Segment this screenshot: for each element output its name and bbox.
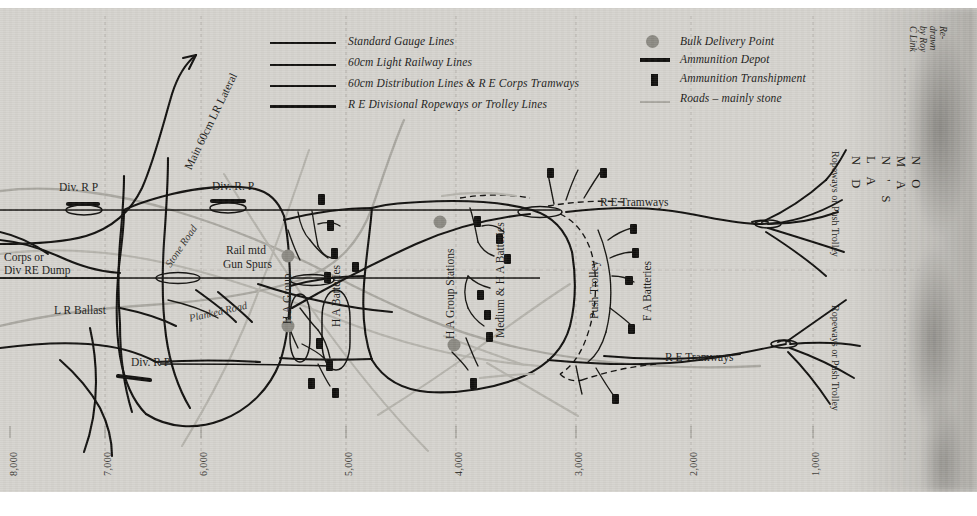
label-rail-mtd: Rail mtd <box>226 244 266 256</box>
label-ropeways-lower: Ropeways or Push Trolley <box>830 305 841 411</box>
label-re-tramways-upper: R E Tramways <box>600 196 668 208</box>
legend-label-light-railway: 60cm Light Railway Lines <box>348 56 472 68</box>
ropeway-fan-lower <box>778 300 860 404</box>
axis-tick-2000: 2,000 <box>688 452 699 477</box>
diagram-page: .sg {fill:none;stroke:#100f0d;stroke-wid… <box>0 0 977 516</box>
label-div-rp-lower-left: Div. R P <box>131 356 170 368</box>
label-push-trolley: Push Trolley <box>588 261 600 319</box>
credit-label: Re-drawn by Roy C Link <box>908 26 948 55</box>
legend-symbol-ammunition-depot <box>640 58 670 62</box>
legend-symbol-road <box>640 101 670 103</box>
legend-label-bulk-delivery-point: Bulk Delivery Point <box>680 35 774 47</box>
axis-tick-8000: 8,000 <box>8 452 19 477</box>
label-corps-dump-line1: Corps or <box>4 251 44 263</box>
label-corps-dump-line2: Div RE Dump <box>4 264 70 276</box>
label-ha-group: H A Group <box>281 274 293 324</box>
legend-symbol-light-railway <box>270 64 336 66</box>
legend-symbol-distribution <box>270 85 336 87</box>
axis-ticks <box>10 426 813 438</box>
axis-tick-5000: 5,000 <box>343 452 354 477</box>
label-re-tramways-lower: R E Tramways <box>665 351 733 363</box>
legend-symbol-ammunition-transhipment <box>651 74 658 86</box>
light-railway-lines <box>0 55 575 426</box>
label-lr-ballast: L R Ballast <box>54 304 106 316</box>
scanned-plate: .sg {fill:none;stroke:#100f0d;stroke-wid… <box>0 8 977 492</box>
legend-label-distribution: 60cm Distribution Lines & R E Corps Tram… <box>348 77 579 89</box>
legend-symbol-standard-gauge <box>270 42 336 44</box>
legend-label-ammunition-depot: Ammunition Depot <box>680 53 770 65</box>
label-ha-group-stations: H A Group Stations <box>444 249 456 339</box>
axis-tick-1000: 1,000 <box>810 452 821 477</box>
label-ropeways-upper: Ropeways or Push Trolley <box>830 151 841 257</box>
label-ha-batteries: H A Batteries <box>330 265 342 327</box>
no-mans-land-label: N O M A N ' S L A N D <box>848 156 923 210</box>
legend-label-ropeway: R E Divisional Ropeways or Trolley Lines <box>348 98 547 110</box>
label-div-rp-upper-left: Div. R P <box>59 181 98 193</box>
label-div-rp-upper-mid: Div. R. P. <box>212 180 256 192</box>
label-fa-batteries: F A Batteries <box>641 261 653 321</box>
legend-label-standard-gauge: Standard Gauge Lines <box>348 35 454 47</box>
label-medium-ha-batteries: Medium & H A Batteries <box>494 222 506 338</box>
passing-loops <box>66 203 797 370</box>
axis-tick-3000: 3,000 <box>573 452 584 477</box>
legend-symbol-ropeway <box>270 105 336 108</box>
axis-tick-4000: 4,000 <box>453 452 464 477</box>
legend-symbol-bulk-delivery-point <box>646 35 659 48</box>
legend-label-road: Roads – mainly stone <box>680 92 782 104</box>
legend-label-ammunition-transhipment: Ammunition Transhipment <box>680 72 806 84</box>
axis-tick-6000: 6,000 <box>198 452 209 477</box>
axis-tick-7000: 7,000 <box>102 452 113 477</box>
label-gun-spurs: Gun Spurs <box>223 258 272 270</box>
